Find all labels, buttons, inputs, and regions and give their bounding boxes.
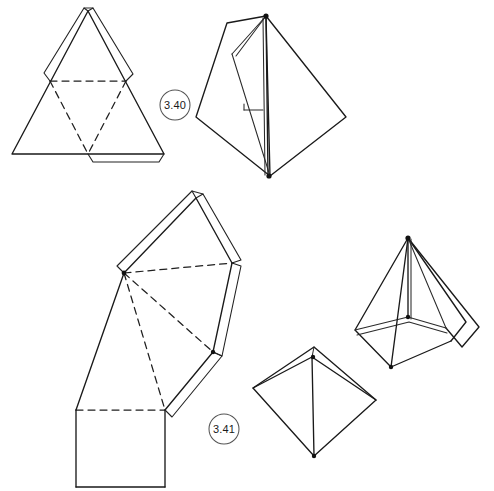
label-text-341: 3.41 <box>213 423 235 435</box>
drawing-canvas: 3.40 <box>0 0 494 491</box>
net-glue-flap-right-341 <box>213 263 241 356</box>
pyramid-front-bottom-vertex <box>312 454 316 458</box>
net-glue-flap-lower-right-341 <box>165 352 222 417</box>
label-text-340: 3.40 <box>164 99 186 111</box>
net-glue-flap-upper-left <box>44 8 88 81</box>
net-glue-flap-upper-right-341 <box>196 194 241 263</box>
net-fold-left-diagonal <box>50 81 88 154</box>
net-glue-flap-base <box>88 154 164 162</box>
pyramid-front-centre-edge <box>312 357 314 456</box>
solid-left-wing <box>196 16 270 176</box>
net-glue-flap-upper-right <box>88 8 133 81</box>
pyramid-front-apex-vertex <box>311 355 315 359</box>
solid-top-vertex <box>263 13 268 18</box>
figure-plate: 3.40 <box>0 0 494 491</box>
figure-label-341: 3.41 <box>209 414 239 444</box>
square-pyramid-net <box>76 191 241 487</box>
net-fold-hub-to-square-corner <box>124 273 165 410</box>
pyramid-front-base-outline <box>253 347 376 456</box>
solid-inner-edge-b <box>236 16 266 56</box>
net-glue-flap-upper-left-341 <box>117 191 196 273</box>
solid-bottom-vertex <box>266 173 271 178</box>
tetrahedron-net <box>12 8 164 162</box>
solid-spine-edge-second <box>263 18 265 175</box>
figure-label-340: 3.40 <box>160 90 190 120</box>
square-pyramid-solid-front <box>253 347 376 458</box>
net-outer-triangle <box>12 11 164 154</box>
pyramid-open-right-inner-edge <box>408 238 446 328</box>
net-lower-right-face-edge <box>165 352 213 410</box>
net-fold-hub-to-upper-right <box>124 263 232 273</box>
pyramid-open-base-front <box>391 341 451 367</box>
net-mid-right-vertex <box>211 350 215 354</box>
pyramid-front-upper-faces <box>253 357 376 400</box>
square-pyramid-solid-open <box>355 235 479 369</box>
pyramid-open-base-back <box>355 317 446 330</box>
net-upper-face-outline <box>124 198 232 273</box>
net-hub-vertex <box>122 271 127 276</box>
net-right-face-edge <box>213 263 232 352</box>
net-fold-hub-to-mid-right <box>124 273 213 352</box>
net-left-face-edge <box>76 273 124 410</box>
pyramid-open-base-centre-vertex <box>406 315 410 319</box>
solid-right-face <box>266 16 346 176</box>
pyramid-open-apex-vertex <box>405 235 410 240</box>
pyramid-open-front-vertex <box>389 365 393 369</box>
net-fold-right-diagonal <box>88 81 126 154</box>
pyramid-open-front-edge <box>391 238 408 367</box>
tetrahedron-solid <box>196 13 346 178</box>
